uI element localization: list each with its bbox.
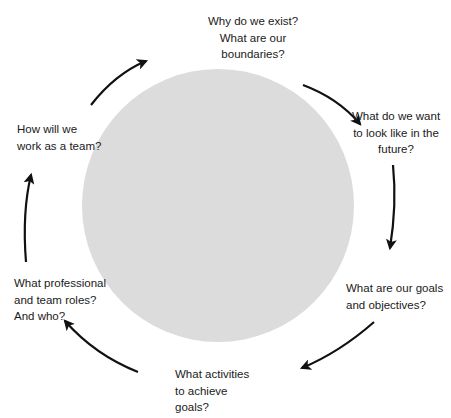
step-goals-line-2: and objectives? xyxy=(346,297,443,314)
step-purpose: Why do we exist? What are our boundaries… xyxy=(196,13,310,63)
step-activities: What activities to achieve goals? xyxy=(175,366,249,416)
step-goals-line-1: What are our goals xyxy=(346,280,443,297)
step-activities-line-1: What activities xyxy=(175,366,249,383)
arrow-goals-to-activities xyxy=(302,322,374,368)
arrow-roles-to-teamwork xyxy=(25,175,31,262)
step-vision-line-3: future? xyxy=(344,141,448,158)
step-activities-line-2: to achieve xyxy=(175,383,249,400)
arrow-activities-to-roles xyxy=(65,321,138,372)
arrow-vision-to-goals xyxy=(390,165,394,248)
step-roles-line-3: And who? xyxy=(14,308,106,325)
step-vision: What do we want to look like in the futu… xyxy=(344,108,448,158)
step-goals: What are our goals and objectives? xyxy=(346,280,443,313)
step-purpose-line-2: What are our xyxy=(196,30,310,47)
step-roles: What professional and team roles? And wh… xyxy=(14,275,106,325)
step-teamwork: How will we work as a team? xyxy=(17,121,101,154)
step-roles-line-1: What professional xyxy=(14,275,106,292)
step-vision-line-2: to look like in the xyxy=(344,125,448,142)
step-teamwork-line-2: work as a team? xyxy=(17,138,101,155)
step-purpose-line-1: Why do we exist? xyxy=(196,13,310,30)
cycle-arrows xyxy=(0,0,451,418)
step-vision-line-1: What do we want xyxy=(344,108,448,125)
step-purpose-line-3: boundaries? xyxy=(196,46,310,63)
arrow-teamwork-to-purpose xyxy=(91,61,146,105)
step-teamwork-line-1: How will we xyxy=(17,121,101,138)
step-roles-line-2: and team roles? xyxy=(14,292,106,309)
step-activities-line-3: goals? xyxy=(175,399,249,416)
